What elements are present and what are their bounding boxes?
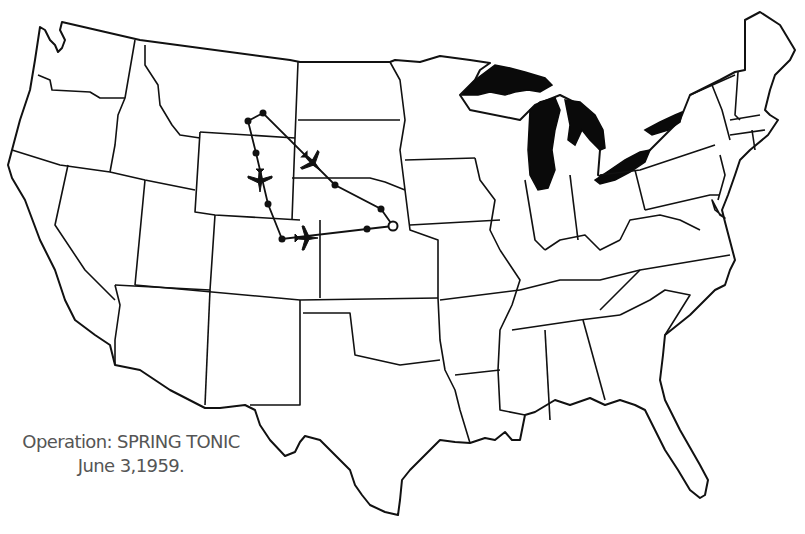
waypoint-marker — [265, 201, 272, 208]
caption-date: June 3,1959. — [16, 454, 246, 478]
caption-operation-name: Operation: SPRING TONIC — [16, 430, 246, 454]
waypoint-marker — [260, 110, 267, 117]
waypoint-marker — [245, 118, 252, 125]
waypoint-marker — [279, 236, 286, 243]
waypoint-marker — [364, 226, 371, 233]
origin-marker — [389, 222, 398, 231]
map-caption: Operation: SPRING TONIC June 3,1959. — [16, 430, 246, 478]
waypoint-marker — [332, 182, 339, 189]
waypoint-marker — [378, 206, 385, 213]
waypoint-marker — [253, 150, 260, 157]
